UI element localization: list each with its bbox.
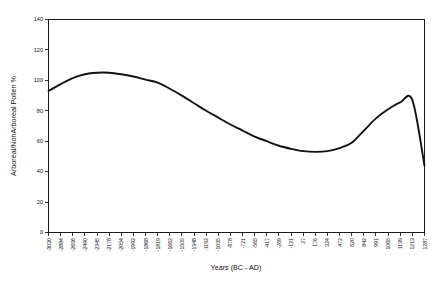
x-tick-label: 1065 [385, 238, 391, 250]
x-tick-label: -2345 [94, 238, 100, 251]
x-tick-label: -417 [264, 238, 270, 248]
x-tick-label: -121 [288, 238, 294, 248]
y-tick-label: 40 [37, 168, 43, 174]
x-tick-label: -1192 [203, 238, 209, 251]
x-tick-label: -2178 [106, 238, 112, 251]
x-tick-label: -1505 [179, 238, 185, 251]
x-axis-title: Years (BC - AD) [211, 263, 262, 272]
x-tick-label: -1035 [215, 238, 221, 251]
x-tick-label: -1348 [191, 238, 197, 251]
x-tick-label: -1868 [143, 238, 149, 251]
x-tick-label: -2054 [118, 238, 124, 251]
y-tick-label: 140 [34, 16, 43, 22]
pollen-line-chart: 020406080100120140 -3030-2884-2656-2490-… [0, 0, 443, 282]
x-tick-label: 27 [300, 238, 306, 244]
y-axis-title: Arboreal/NonArboreal Pollen % [9, 75, 18, 175]
y-tick-label: 80 [37, 108, 43, 114]
x-tick-label: 991 [373, 238, 379, 247]
x-tick-label: 324 [324, 238, 330, 247]
x-tick-label: -2490 [82, 238, 88, 251]
x-tick-label: -2884 [58, 238, 64, 251]
x-tick-label: -1992 [130, 238, 136, 251]
x-tick-label: -2656 [70, 238, 76, 251]
y-tick-label: 20 [37, 199, 43, 205]
x-tick-label: -878 [227, 238, 233, 248]
x-tick-label: 1213 [409, 238, 415, 250]
y-tick-label: 60 [37, 138, 43, 144]
x-tick-label: -721 [240, 238, 246, 248]
x-tick-label: 1139 [397, 238, 403, 249]
y-tick-label: 100 [34, 77, 43, 83]
x-tick-label: -1662 [167, 238, 173, 251]
x-tick-label: -1819 [155, 238, 161, 251]
x-tick-label: 1287 [422, 238, 428, 250]
x-tick-label: 472 [337, 238, 343, 247]
x-tick-label: -565 [252, 238, 258, 248]
x-tick-label: 842 [361, 238, 367, 247]
x-tick-label: 176 [312, 238, 318, 247]
pollen-curve [49, 73, 425, 166]
x-tick-label: -269 [276, 238, 282, 248]
y-tick-label: 120 [34, 47, 43, 53]
pollen-chart-container: 020406080100120140 -3030-2884-2656-2490-… [0, 0, 443, 282]
y-tick-label: 0 [40, 229, 43, 235]
x-axis: -3030-2884-2656-2490-2345-2178-2054-1992… [46, 233, 428, 252]
y-axis: 020406080100120140 [34, 16, 49, 235]
x-tick-label: -3030 [46, 238, 52, 251]
x-tick-label: 620 [349, 238, 355, 247]
